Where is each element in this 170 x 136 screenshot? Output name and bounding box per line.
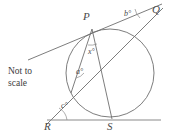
tangent-line-PQ: [28, 4, 162, 60]
not-to-scale-note: Not to scale: [8, 66, 32, 89]
angle-label-a: a°: [76, 68, 83, 76]
vertex-label-Q: Q: [152, 4, 160, 15]
vertex-label-S: S: [107, 121, 113, 132]
diagram-canvas: P Q R S a° b° c° x° Not to scale: [0, 0, 170, 136]
angle-label-c: c°: [61, 102, 68, 110]
angle-label-b: b°: [124, 10, 131, 18]
vertex-label-P: P: [83, 11, 90, 22]
chord-PT: [71, 29, 92, 93]
angle-label-x: x°: [88, 48, 95, 56]
chord-PS: [92, 29, 112, 119]
vertex-label-R: R: [44, 121, 51, 132]
